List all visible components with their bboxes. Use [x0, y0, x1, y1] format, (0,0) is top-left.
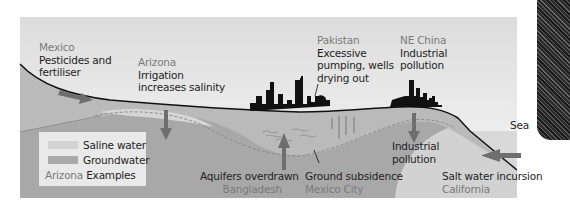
legend-label-groundwater: Groundwater [83, 154, 149, 167]
label-mexico: Mexico Pesticides and fertiliser [39, 41, 112, 79]
label-bangladesh: Aquifers overdrawn Bangladesh [200, 170, 282, 195]
legend-key: Arizona Examples [45, 169, 136, 182]
label-mexico-city: Ground subsidence Mexico City [305, 170, 403, 195]
legend: Saline water Groundwater Arizona Example… [39, 132, 146, 186]
groundwater-problems-diagram: Mexico Pesticides and fertiliser Arizona… [0, 0, 570, 205]
label-california: Salt water incursion California [442, 170, 543, 195]
legend-swatch-saline [48, 141, 78, 149]
legend-label-saline: Saline water [83, 139, 146, 152]
label-ne-china: NE China Industrial pollution [400, 34, 447, 72]
legend-swatch-groundwater [48, 156, 78, 164]
label-arizona: Arizona Irrigation increases salinity [138, 56, 225, 94]
label-pakistan: Pakistan Excessive pumping, wells drying… [317, 34, 394, 84]
label-sea: Sea [510, 119, 529, 132]
label-industrial-pollution: Industrial pollution [392, 140, 439, 165]
adjacent-photo-fragment [537, 0, 570, 140]
